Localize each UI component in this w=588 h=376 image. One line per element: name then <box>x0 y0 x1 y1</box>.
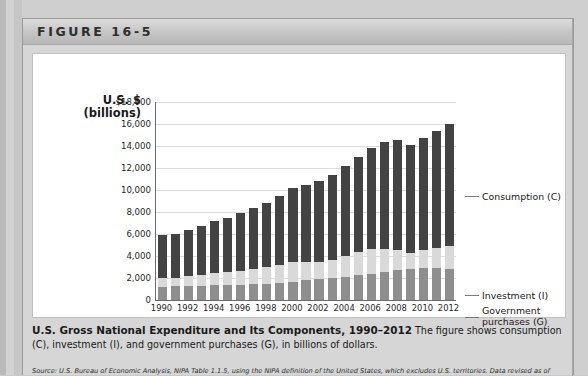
bar-segment-consumption <box>393 140 402 250</box>
bar-segment-investment <box>445 246 454 269</box>
bar-segment-consumption <box>328 175 337 260</box>
bar-segment-government <box>288 282 297 300</box>
bar-segment-consumption <box>367 148 376 249</box>
figure-source-note: Source: U.S. Bureau of Economic Analysis… <box>32 367 572 376</box>
callout-government-label-line1: Government <box>482 305 547 316</box>
x-tick-label: 2010 <box>412 303 433 313</box>
caption-title: U.S. Gross National Expenditure and Its … <box>32 324 412 336</box>
bar-segment-consumption <box>275 196 284 265</box>
bar-segment-consumption <box>158 235 167 277</box>
bar-segment-government <box>262 284 271 301</box>
callout-consumption-label: Consumption (C) <box>482 191 561 202</box>
bar-segment-government <box>210 285 219 300</box>
y-tick-label: 12,000 <box>91 163 151 173</box>
bar-segment-investment <box>328 260 337 278</box>
bar-segment-government <box>249 284 258 300</box>
bar-segment-investment <box>367 249 376 274</box>
bar-segment-government <box>197 286 206 300</box>
bar-1994 <box>210 221 219 300</box>
bar-segment-investment <box>197 275 206 286</box>
bar-segment-investment <box>406 253 415 268</box>
bar-segment-consumption <box>354 157 363 253</box>
bar-segment-consumption <box>210 221 219 273</box>
bar-segment-consumption <box>314 181 323 262</box>
bar-segment-consumption <box>406 145 415 253</box>
bar-1997 <box>249 208 258 300</box>
bar-segment-investment <box>184 276 193 286</box>
bar-segment-investment <box>262 267 271 284</box>
x-tick-label: 1992 <box>177 303 198 313</box>
bar-2012 <box>445 124 454 300</box>
figure-header-bar: FIGURE 16-5 <box>23 19 573 45</box>
bar-segment-consumption <box>223 218 232 272</box>
bar-segment-consumption <box>432 131 441 249</box>
bar-2001 <box>301 185 310 300</box>
x-tick-label: 1990 <box>151 303 172 313</box>
investment-leader-line <box>465 295 479 296</box>
y-tick-label: 14,000 <box>91 141 151 151</box>
bar-segment-consumption <box>341 166 350 256</box>
panel-right-rule <box>572 19 573 376</box>
bar-segment-government <box>406 269 415 300</box>
x-tick-label: 1998 <box>255 303 276 313</box>
chart-card: U.S. $ (billions) 02,0004,0006,0008,0001… <box>32 53 566 318</box>
bar-segment-government <box>301 280 310 300</box>
bar-2010 <box>419 138 428 300</box>
bar-segment-investment <box>314 262 323 280</box>
bar-1990 <box>158 235 167 300</box>
bar-segment-consumption <box>301 185 310 263</box>
bar-segment-investment <box>301 262 310 280</box>
bar-segment-investment <box>393 250 402 270</box>
bar-segment-investment <box>354 252 363 275</box>
bar-1993 <box>197 226 206 300</box>
y-tick-label: 6,000 <box>91 229 151 239</box>
bar-segment-government <box>445 269 454 300</box>
x-tick-label: 2008 <box>386 303 407 313</box>
bar-segment-government <box>367 274 376 300</box>
bar-segment-investment <box>171 278 180 287</box>
bar-segment-consumption <box>419 138 428 250</box>
government-leader-line <box>465 317 479 318</box>
bar-1999 <box>275 196 284 300</box>
bar-2009 <box>406 145 415 300</box>
x-tick-label: 2000 <box>281 303 302 313</box>
bar-segment-investment <box>210 273 219 285</box>
callout-investment-label: Investment (I) <box>482 290 548 301</box>
bar-2005 <box>354 157 363 300</box>
bar-1995 <box>223 218 232 300</box>
bar-2011 <box>432 131 441 300</box>
y-tick-label: 2,000 <box>91 273 151 283</box>
bar-segment-government <box>171 286 180 300</box>
x-tick-label: 2002 <box>307 303 328 313</box>
bar-1998 <box>262 203 271 300</box>
bar-1992 <box>184 230 193 300</box>
bar-segment-investment <box>275 265 284 283</box>
bar-segment-investment <box>288 262 297 282</box>
bar-2003 <box>328 175 337 300</box>
bar-2008 <box>393 140 402 300</box>
x-tick-label: 2004 <box>333 303 354 313</box>
y-tick-label: 16,000 <box>91 119 151 129</box>
callout-investment: Investment (I) <box>482 290 548 301</box>
figure-number-label: FIGURE 16-5 <box>37 24 153 39</box>
bar-2004 <box>341 166 350 300</box>
bar-segment-consumption <box>249 208 258 269</box>
bar-2006 <box>367 148 376 300</box>
bar-segment-consumption <box>380 142 389 249</box>
callout-consumption: Consumption (C) <box>482 191 561 202</box>
y-tick-label: $18,000 <box>91 97 151 107</box>
bar-segment-investment <box>236 271 245 285</box>
bar-segment-consumption <box>184 230 193 276</box>
bar-segment-consumption <box>445 124 454 246</box>
consumption-leader-line <box>465 196 479 197</box>
bar-1991 <box>171 234 180 300</box>
bar-segment-government <box>184 286 193 300</box>
bar-segment-investment <box>158 278 167 287</box>
y-tick-label: 8,000 <box>91 207 151 217</box>
bar-segment-government <box>328 278 337 300</box>
bar-segment-government <box>275 283 284 300</box>
x-tick-label: 2006 <box>360 303 381 313</box>
bar-2007 <box>380 142 389 300</box>
bar-segment-government <box>341 277 350 300</box>
